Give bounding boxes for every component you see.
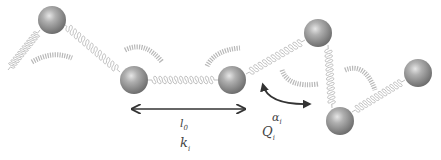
bead-spring-diagram [0,0,441,160]
bead-6 [404,59,432,87]
stretch-spring-6 [352,80,405,112]
bend-spring-2 [125,47,162,62]
stretch-spring-2 [64,24,120,72]
bead-3 [218,66,246,94]
bend-spring-3 [207,48,240,66]
stretch-spring-5 [325,45,336,108]
bending-springs-group [32,47,375,90]
bend-stiffness-label: Qi [262,124,275,142]
bead-5 [326,107,354,135]
stretch-spring-4 [246,40,305,74]
bend-spring-1 [32,55,72,62]
bead-1 [38,6,66,34]
stretch-stiffness-label: ki [180,135,190,153]
beads-group [38,6,432,135]
bend-spring-4 [282,70,318,85]
bead-4 [304,19,332,47]
bead-2 [120,66,148,94]
stretch-spring-1 [8,30,40,70]
rest-length-label: l0 [180,117,188,132]
bend-spring-5 [345,68,375,90]
stretch-spring-3 [148,76,218,84]
bend-angle-arrow [263,85,309,104]
